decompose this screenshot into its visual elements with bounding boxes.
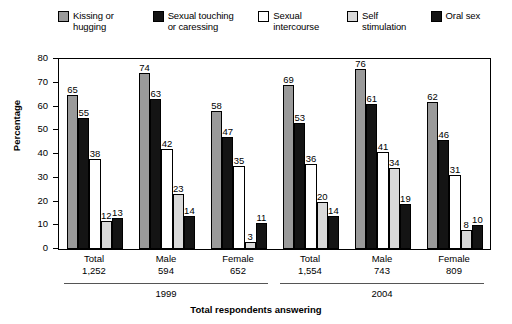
bar: 76: [355, 69, 366, 250]
bar-value-label: 63: [150, 88, 161, 99]
bar-value-label: 13: [112, 207, 123, 218]
bar: 65: [67, 95, 78, 249]
bar-value-label: 8: [464, 219, 469, 230]
bar: 34: [389, 168, 400, 249]
bar-value-label: 74: [139, 62, 150, 73]
bar: 63: [150, 99, 161, 249]
bar-value-label: 14: [184, 205, 195, 216]
bar: 74: [139, 73, 150, 249]
bar-value-label: 35: [234, 155, 245, 166]
plot-area: 6555381213746342231458473531169533620147…: [58, 58, 491, 250]
y-tick-mark: [53, 153, 58, 154]
bar: 41: [377, 152, 388, 249]
y-tick-mark: [53, 82, 58, 83]
bar-value-label: 76: [355, 58, 366, 69]
bar-value-label: 36: [306, 153, 317, 164]
bar-value-label: 14: [328, 205, 339, 216]
bar-value-label: 11: [256, 212, 266, 223]
bar: 58: [211, 111, 222, 249]
bar-value-label: 41: [378, 141, 389, 152]
legend-item[interactable]: Oral sex: [431, 10, 490, 22]
legend-item-label: Sexual touching or caressing: [168, 10, 234, 32]
legend-item[interactable]: Self stimulation: [347, 10, 417, 32]
bar-value-label: 42: [162, 138, 173, 149]
bar-value-label: 62: [427, 91, 438, 102]
bar: 61: [366, 104, 377, 249]
bar: 31: [449, 175, 460, 249]
bar: 3: [245, 242, 256, 249]
bar-value-label: 23: [173, 183, 184, 194]
x-axis-group-label: Total1,252: [54, 253, 134, 277]
bar-value-label: 34: [389, 157, 400, 168]
legend-swatch-icon: [347, 11, 358, 22]
chart-legend: Kissing or huggingSexual touching or car…: [58, 10, 504, 44]
bar-value-label: 53: [294, 112, 305, 123]
y-tick-mark: [53, 201, 58, 202]
legend-item-label: Kissing or hugging: [73, 10, 114, 32]
x-group-category: Male: [342, 253, 422, 265]
y-tick-label: 60: [37, 100, 48, 111]
y-tick-mark: [53, 224, 58, 225]
bar: 55: [78, 118, 89, 249]
bar: 35: [233, 166, 244, 249]
x-group-category: Female: [198, 253, 278, 265]
legend-swatch-icon: [258, 11, 269, 22]
x-axis-group-label: Female809: [414, 253, 494, 277]
plot-right-border: [490, 58, 491, 249]
legend-swatch-icon: [431, 11, 442, 22]
y-tick-label: 30: [37, 171, 48, 182]
y-tick-label: 80: [37, 52, 48, 63]
bar-value-label: 38: [90, 148, 101, 159]
y-tick-label: 20: [37, 195, 48, 206]
bar: 69: [283, 85, 294, 249]
y-tick-mark: [53, 58, 58, 59]
bar-value-label: 19: [400, 193, 411, 204]
bar-value-label: 12: [101, 210, 112, 221]
x-group-category: Male: [126, 253, 206, 265]
bar: 10: [472, 225, 483, 249]
x-group-count: 652: [198, 265, 278, 277]
bar: 11: [256, 223, 267, 249]
x-axis-group-label: Total1,554: [270, 253, 350, 277]
bar-value-label: 61: [366, 93, 377, 104]
y-tick-label: 10: [37, 218, 48, 229]
bar: 23: [173, 194, 184, 249]
era-separator-rule: [64, 283, 268, 284]
era-label: 1999: [64, 288, 268, 299]
bar-value-label: 46: [438, 129, 449, 140]
y-tick-mark: [53, 106, 58, 107]
y-axis-title: Percentage: [11, 86, 22, 166]
bar-value-label: 55: [78, 107, 89, 118]
bar: 14: [328, 216, 339, 249]
legend-item[interactable]: Sexual touching or caressing: [153, 10, 245, 32]
bar-value-label: 3: [248, 231, 253, 242]
x-axis-group-label: Male743: [342, 253, 422, 277]
bar: 14: [184, 216, 195, 249]
x-group-count: 809: [414, 265, 494, 277]
bar: 46: [438, 140, 449, 249]
x-group-count: 1,554: [270, 265, 350, 277]
x-axis-group-label: Male594: [126, 253, 206, 277]
bar: 19: [400, 204, 411, 249]
bar: 13: [112, 218, 123, 249]
bar: 8: [461, 230, 472, 249]
bar: 62: [427, 102, 438, 249]
x-group-category: Female: [414, 253, 494, 265]
bar: 36: [305, 164, 316, 250]
x-axis-group-label: Female652: [198, 253, 278, 277]
x-group-count: 594: [126, 265, 206, 277]
y-tick-mark: [53, 177, 58, 178]
bar: 20: [317, 202, 328, 250]
legend-item-label: Oral sex: [446, 10, 481, 21]
legend-item[interactable]: Kissing or hugging: [58, 10, 139, 32]
legend-item[interactable]: Sexual intercourse: [258, 10, 333, 32]
bar-value-label: 65: [67, 84, 78, 95]
legend-item-label: Sexual intercourse: [273, 10, 319, 32]
bar-value-label: 47: [222, 126, 233, 137]
y-tick-mark: [53, 248, 58, 249]
bar: 47: [222, 137, 233, 249]
bar: 38: [89, 159, 100, 249]
bar: 12: [101, 221, 112, 250]
era-separator-rule: [280, 283, 484, 284]
y-tick-label: 50: [37, 123, 48, 134]
